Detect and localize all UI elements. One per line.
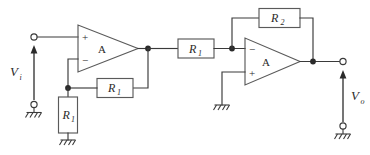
input-terminal-circle[interactable] (31, 34, 37, 40)
ground-shunt (60, 140, 76, 145)
wire-left-inverting-to-node (68, 59, 78, 88)
wire-right-noninverting-to-ground (222, 72, 245, 105)
resistor-r1-shunt-subscript: 1 (71, 115, 75, 124)
output-arrow-head (340, 70, 347, 79)
wire-r2-to-output-node (300, 18, 313, 62)
opamp-left-inverting-sign: − (82, 54, 88, 66)
opamp-right-noninverting-sign: + (249, 67, 255, 79)
ground-noninverting (214, 105, 230, 110)
resistor-r2-feedback-label: R (270, 11, 279, 25)
input-signal-subscript: i (20, 73, 22, 82)
input-arrow-head (31, 45, 38, 54)
circuit-canvas: V i A + − (0, 0, 370, 155)
opamp-left[interactable]: A + − (78, 25, 138, 72)
output-signal-subscript: o (361, 97, 365, 106)
wire-node-to-feedback-resistor (133, 49, 148, 89)
input-reference-terminal-circle[interactable] (31, 101, 37, 107)
ground-output (335, 129, 351, 139)
resistor-r1-feedback[interactable]: R 1 (97, 79, 133, 98)
resistor-r1-series-label: R (188, 42, 197, 56)
opamp-right-inverting-sign: − (249, 43, 255, 55)
node-output (310, 59, 316, 65)
resistor-r1-feedback-label: R (107, 81, 116, 95)
output-source-group: V o (335, 70, 365, 139)
opamp-right-label: A (262, 56, 270, 68)
resistor-r1-series-subscript: 1 (198, 49, 202, 58)
output-reference-terminal-circle[interactable] (340, 123, 346, 129)
resistor-r2-feedback[interactable]: R 2 (259, 9, 300, 28)
resistor-r1-feedback-subscript: 1 (117, 88, 121, 97)
circuit-diagram: V i A + − (0, 0, 370, 155)
resistor-r2-feedback-subscript: 2 (281, 18, 285, 27)
resistor-r1-shunt-label: R (62, 108, 71, 122)
output-terminal-circle[interactable] (340, 58, 346, 64)
resistor-r1-series[interactable]: R 1 (178, 39, 214, 58)
output-signal-label: V (351, 88, 361, 103)
opamp-right[interactable]: A − + (245, 38, 300, 85)
opamp-left-noninverting-sign: + (82, 31, 88, 43)
input-signal-label: V (10, 64, 20, 79)
opamp-left-label: A (98, 43, 106, 55)
resistor-r2-feedback-body (259, 9, 300, 28)
resistor-r1-shunt[interactable]: R 1 (59, 97, 78, 133)
ground-input (26, 108, 42, 118)
